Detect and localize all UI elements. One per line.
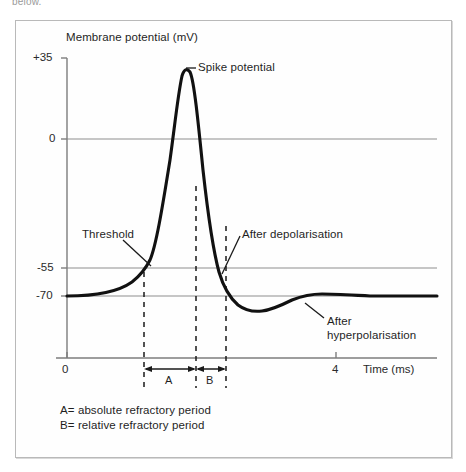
threshold-leader [123,240,151,266]
annotation-threshold: Threshold [82,228,134,240]
span-b-arrowhead-right [218,366,226,372]
y-tick-label-minus55: -55 [37,261,54,273]
after-hyperpolarisation-leader [305,303,324,318]
x-tick-label-4: 4 [332,363,338,375]
span-b-label: B [206,374,213,386]
annotation-spike-potential: Spike potential [198,61,275,73]
span-a-arrowhead-left [144,366,152,372]
legend-line-a: A= absolute refractory period [60,404,211,416]
action-potential-curve [67,70,437,312]
annotation-after-hyperpolarisation-line1: After [327,315,352,327]
span-a-label: A [165,374,172,386]
legend-line-b: B= relative refractory period [60,419,204,431]
span-b-arrowhead-left [196,366,204,372]
y-tick-label-minus70: -70 [36,289,53,301]
x-axis-label: Time (ms) [363,363,414,375]
span-a-arrowhead-right [188,366,196,372]
y-tick-label-0: 0 [49,132,55,144]
annotation-after-depolarisation: After depolarisation [242,228,343,240]
chart-title: Membrane potential (mV) [66,31,198,43]
y-tick-label-35: +35 [33,51,53,63]
annotation-after-hyperpolarisation-line2: hyperpolarisation [327,329,416,341]
x-tick-label-0: 0 [62,363,68,375]
